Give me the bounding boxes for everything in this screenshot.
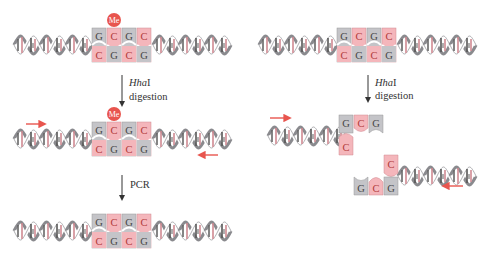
base-label: G [370,31,378,42]
hhai-methylation-diagram: G C G C C G C G Me HhaI digestion [0,0,484,264]
base-label: G [387,183,395,194]
base-label: G [357,183,365,194]
left-dna-methylated: G C G C C G C G Me [14,13,231,62]
base-label: C [140,31,147,42]
base-label: G [95,31,103,42]
right-fragment-right: C G C G [354,155,476,195]
base-label: C [355,31,362,42]
enzyme-suffix: I [393,77,397,88]
base-label: G [110,144,118,155]
enzyme-name: Hha [374,77,393,88]
base-label: C [110,125,117,136]
helix-right [153,36,231,54]
base-label: C [140,125,147,136]
base-label: C [110,217,117,228]
base-label: G [95,217,103,228]
base-label: G [372,118,380,129]
base-label: C [357,118,364,129]
base-label: G [140,50,148,61]
methyl-label: Me [109,110,120,119]
base-label: G [385,50,393,61]
base-label: C [95,50,102,61]
methyl-badge: Me [107,13,121,27]
base-label: G [340,31,348,42]
methyl-label: Me [109,16,120,25]
base-label: C [95,236,102,247]
base-label: G [125,31,133,42]
base-label: C [140,217,147,228]
step-label: PCR [130,179,150,190]
svg-text:HhaI: HhaI [128,77,151,88]
base-label: G [355,50,363,61]
base-label: C [110,31,117,42]
base-block-group: G C G C C G C G [92,28,151,62]
base-label: C [387,159,394,170]
svg-text:HhaI: HhaI [374,77,397,88]
left-dna-pcr-product: G C G C C G C G [14,214,231,248]
enzyme-suffix: I [147,77,151,88]
base-label: G [110,50,118,61]
base-label: C [125,50,132,61]
base-label: C [125,144,132,155]
base-label: G [125,217,133,228]
base-label: C [340,50,347,61]
methyl-badge: Me [107,107,121,121]
base-label: C [342,142,349,153]
step-arrow-pcr: PCR [122,175,150,198]
right-fragment-left: G C G C [268,115,383,155]
right-dna-unmethylated: G C G C C G C G [259,28,476,62]
base-label: G [110,236,118,247]
base-label: C [372,183,379,194]
step-label: digestion [129,91,168,102]
base-label: C [125,236,132,247]
step-arrow-hhai: HhaI digestion [122,75,168,104]
base-label: G [95,125,103,136]
base-label: G [342,118,350,129]
helix-left [14,36,92,54]
base-label: G [140,236,148,247]
base-label: C [370,50,377,61]
base-label: C [385,31,392,42]
base-label: C [95,144,102,155]
base-label: G [125,125,133,136]
left-dna-after-digestion: G C G C C G C G Me [14,107,231,156]
enzyme-name: Hha [128,77,147,88]
step-label: digestion [375,90,414,101]
step-arrow-hhai-right: HhaI digestion [368,75,414,101]
base-label: G [140,144,148,155]
